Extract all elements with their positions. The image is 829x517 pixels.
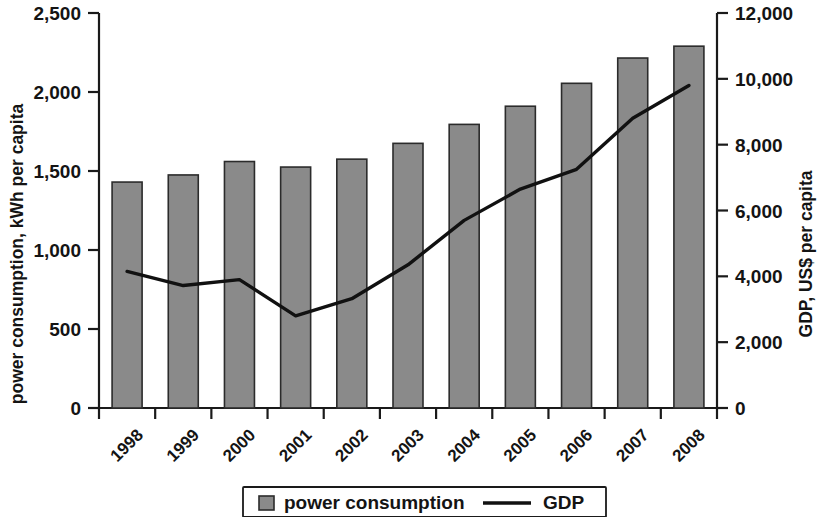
bar-series-power-consumption bbox=[112, 46, 704, 408]
dual-axis-chart: power consumption, kWh per capita GDP, U… bbox=[0, 0, 829, 517]
legend-swatch-power-consumption bbox=[259, 496, 274, 510]
left-axis-tick-label: 0 bbox=[70, 398, 81, 419]
bar bbox=[112, 182, 142, 408]
legend-label-power-consumption: power consumption bbox=[284, 492, 465, 513]
bar bbox=[337, 159, 367, 408]
x-axis-tick-label: 2002 bbox=[331, 425, 371, 465]
x-axis-tick-label: 1999 bbox=[163, 425, 203, 465]
right-axis-tick-label: 6,000 bbox=[735, 201, 783, 222]
x-axis-tick-label: 2001 bbox=[275, 425, 315, 465]
x-axis-tick-label: 2003 bbox=[388, 425, 428, 465]
right-axis-title: GDP, US$ per capita bbox=[796, 170, 816, 337]
bar bbox=[393, 143, 423, 408]
right-axis-tick-label: 4,000 bbox=[735, 266, 783, 287]
left-axis-tick-label: 500 bbox=[49, 319, 81, 340]
left-axis-tick-label: 1,000 bbox=[33, 240, 81, 261]
x-axis-tick-label: 1998 bbox=[107, 425, 147, 465]
bar bbox=[168, 175, 198, 408]
right-axis-tick-label: 12,000 bbox=[735, 3, 793, 24]
x-axis: 1998199920002001200220032004200520062007… bbox=[88, 408, 728, 466]
x-axis-tick-label: 2005 bbox=[500, 425, 540, 465]
left-axis-tick-label: 1,500 bbox=[33, 161, 81, 182]
legend-label-gdp: GDP bbox=[543, 492, 585, 513]
bar bbox=[562, 83, 592, 408]
x-axis-tick-label: 2004 bbox=[444, 425, 485, 466]
x-axis-tick-label: 2008 bbox=[669, 425, 709, 465]
right-axis-tick-label: 0 bbox=[735, 398, 746, 419]
right-axis: 02,0004,0006,0008,00010,00012,000 bbox=[717, 3, 793, 419]
right-axis-tick-label: 10,000 bbox=[735, 69, 793, 90]
left-axis-tick-label: 2,000 bbox=[33, 82, 81, 103]
left-axis: 05001,0001,5002,0002,500 bbox=[33, 3, 99, 419]
x-axis-tick-label: 2006 bbox=[556, 425, 596, 465]
left-axis-tick-label: 2,500 bbox=[33, 3, 81, 24]
x-axis-tick-label: 2007 bbox=[612, 425, 652, 465]
bar bbox=[505, 106, 535, 408]
right-axis-tick-label: 8,000 bbox=[735, 135, 783, 156]
x-axis-tick-label: 2000 bbox=[219, 425, 259, 465]
chart-container: power consumption, kWh per capita GDP, U… bbox=[0, 0, 829, 517]
left-axis-title: power consumption, kWh per capita bbox=[7, 104, 27, 405]
bar bbox=[674, 46, 704, 408]
chart-legend: power consumptionGDP bbox=[243, 487, 606, 517]
bar bbox=[281, 167, 311, 408]
right-axis-tick-label: 2,000 bbox=[735, 332, 783, 353]
bar bbox=[449, 124, 479, 408]
